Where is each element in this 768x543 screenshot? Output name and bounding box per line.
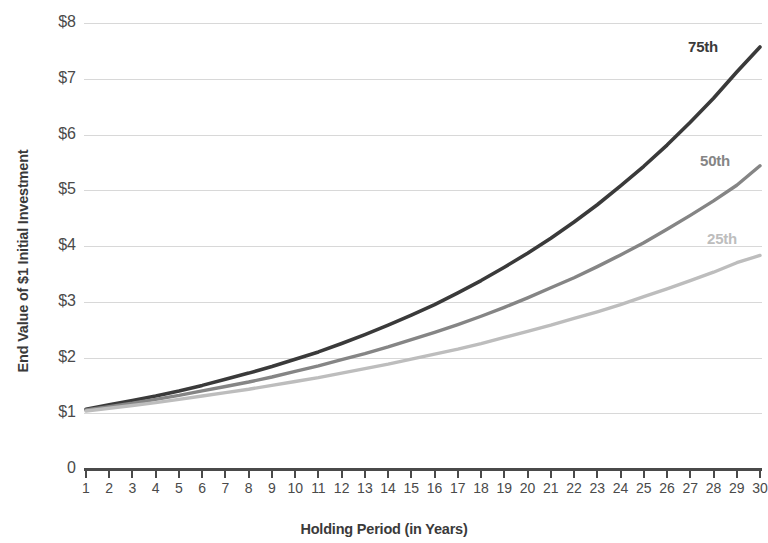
series-curves	[0, 0, 768, 543]
x-axis-title: Holding Period (in Years)	[0, 521, 768, 537]
series-label-25th: 25th	[707, 230, 737, 247]
series-label-50th: 50th	[700, 152, 730, 169]
chart-canvas: End Value of $1 Initial Investment $8$7$…	[0, 0, 768, 543]
series-line-50th	[86, 166, 760, 410]
series-label-75th: 75th	[688, 38, 718, 55]
